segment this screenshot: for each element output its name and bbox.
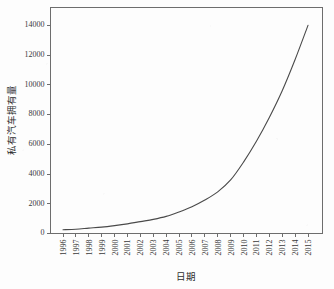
chart-page: 02000400060008000100001200014000 1996199…	[0, 0, 334, 289]
y-tick-label: 10000	[25, 80, 45, 89]
y-tick-label: 14000	[25, 20, 45, 29]
y-tick-label: 8000	[29, 109, 45, 118]
x-tick-label: 2001	[123, 240, 132, 256]
line-chart: 02000400060008000100001200014000 1996199…	[0, 0, 334, 289]
x-tick-label: 2005	[175, 240, 184, 256]
x-tick-label: 2015	[304, 240, 313, 256]
x-tick-label: 2011	[252, 240, 261, 256]
plot-frame	[51, 8, 323, 234]
y-tick-label: 12000	[25, 50, 45, 59]
x-tick-label: 2013	[278, 240, 287, 256]
y-tick-label: 6000	[29, 139, 45, 148]
x-tick-label: 2009	[227, 240, 236, 256]
x-axis-title: 日期	[176, 272, 196, 282]
x-tick-label: 1998	[85, 240, 94, 256]
y-tick-label: 2000	[29, 199, 45, 208]
x-axis: 1996199719981999200020012002200320042005…	[59, 234, 313, 256]
x-tick-label: 1999	[98, 240, 107, 256]
x-tick-label: 2014	[291, 240, 300, 256]
x-tick-label: 2007	[201, 240, 210, 256]
y-axis-title: 私有汽车拥有量	[6, 85, 17, 155]
x-tick-label: 2008	[214, 240, 223, 256]
x-tick-label: 2006	[188, 240, 197, 256]
y-axis: 02000400060008000100001200014000	[25, 20, 51, 237]
x-tick-label: 1996	[59, 240, 68, 256]
x-tick-label: 2004	[162, 240, 171, 256]
x-tick-label: 1997	[72, 240, 81, 256]
x-tick-label: 2010	[240, 240, 249, 256]
y-tick-label: 0	[41, 228, 45, 237]
y-tick-label: 4000	[29, 169, 45, 178]
x-tick-label: 2000	[111, 240, 120, 256]
x-tick-label: 2012	[265, 240, 274, 256]
data-series-line	[63, 25, 308, 229]
x-tick-label: 2003	[149, 240, 158, 256]
x-tick-label: 2002	[136, 240, 145, 256]
